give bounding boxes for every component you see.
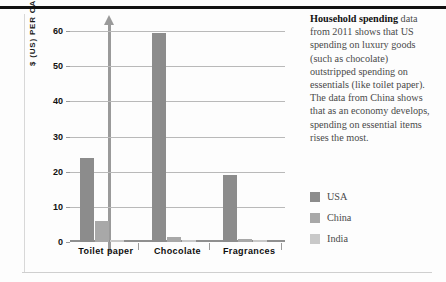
top-divider bbox=[0, 6, 446, 9]
legend-label: India bbox=[327, 233, 348, 244]
legend-item: USA bbox=[310, 186, 430, 207]
bar-group bbox=[152, 24, 196, 242]
bar-usa bbox=[80, 158, 94, 242]
category-label: Toilet paper bbox=[70, 246, 142, 256]
bar-usa bbox=[223, 175, 237, 242]
bar-india bbox=[182, 240, 196, 242]
legend-swatch-icon bbox=[310, 234, 320, 244]
category-separator-tick bbox=[281, 243, 282, 250]
category-label: Fragrances bbox=[213, 246, 285, 256]
legend-label: USA bbox=[327, 191, 347, 202]
legend-item: India bbox=[310, 228, 430, 249]
bottom-divider bbox=[22, 272, 432, 273]
bar-chart: $ (US) PER CAPITA, 2011 0102030405060 To… bbox=[30, 14, 292, 264]
category-separator-tick bbox=[138, 243, 139, 250]
bar-group bbox=[223, 24, 267, 242]
caption-lead: Household spending bbox=[310, 13, 398, 24]
bar-india bbox=[253, 240, 267, 242]
legend-item: China bbox=[310, 207, 430, 228]
chart-legend: USAChinaIndia bbox=[310, 186, 430, 249]
left-divider bbox=[24, 14, 25, 272]
figure-root: $ (US) PER CAPITA, 2011 0102030405060 To… bbox=[0, 0, 446, 282]
y-tick-label: 60 bbox=[53, 26, 63, 36]
bar-china bbox=[95, 221, 109, 242]
category-label: Chocolate bbox=[142, 246, 214, 256]
y-axis-title-wrap: $ (US) PER CAPITA, 2011 bbox=[30, 14, 46, 264]
legend-swatch-icon bbox=[310, 192, 320, 202]
caption-body: data from 2011 shows that US spending on… bbox=[310, 13, 430, 143]
bar-china bbox=[238, 239, 252, 242]
caption-text: Household spending data from 2011 shows … bbox=[310, 12, 436, 144]
y-tick-label: 10 bbox=[53, 202, 63, 212]
y-tick-label: 30 bbox=[53, 132, 63, 142]
bar-group bbox=[80, 24, 124, 242]
y-tick-mark bbox=[66, 242, 70, 243]
y-tick-label: 20 bbox=[53, 167, 63, 177]
bar-groups bbox=[70, 24, 285, 242]
legend-label: China bbox=[327, 212, 351, 223]
category-separator-tick bbox=[209, 243, 210, 250]
bar-india bbox=[110, 240, 124, 242]
bar-usa bbox=[152, 33, 166, 242]
y-axis-title: $ (US) PER CAPITA, 2011 bbox=[28, 0, 37, 66]
y-tick-label: 40 bbox=[53, 96, 63, 106]
bar-china bbox=[167, 237, 181, 242]
y-tick-label: 0 bbox=[58, 237, 63, 247]
y-tick-label: 50 bbox=[53, 61, 63, 71]
legend-swatch-icon bbox=[310, 213, 320, 223]
plot-area: 0102030405060 Toilet paperChocolateFragr… bbox=[70, 24, 285, 242]
